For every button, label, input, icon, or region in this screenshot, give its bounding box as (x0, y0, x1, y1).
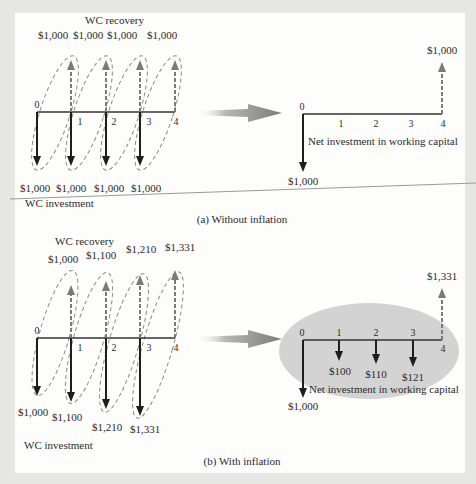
recovery-value: $1,000 (147, 29, 178, 41)
final-inflow-value: $1,000 (427, 44, 458, 56)
panel-b-right-diagram: 0 1 2 3 4 $100 $110 $121 Net investment … (279, 270, 459, 412)
incremental-outflow-value: $100 (329, 365, 352, 377)
wc-investment-label: WC investment (25, 197, 94, 209)
incremental-outflow-value: $121 (402, 371, 424, 383)
period-label: 0 (300, 327, 305, 338)
period-label: 1 (78, 342, 83, 353)
cash-flow-diagram: WC recovery $1,000 $1,000 $1,000 $1,000 … (0, 0, 476, 484)
period-label: 3 (147, 116, 152, 127)
period-label: 3 (147, 342, 152, 353)
caption-a: (a) Without inflation (197, 213, 288, 226)
investment-value: $1,000 (20, 182, 51, 194)
wc-recovery-label: WC recovery (85, 14, 144, 26)
recovery-value: $1,100 (86, 249, 117, 261)
investment-arrows (33, 338, 144, 416)
recovery-arrows (67, 60, 179, 112)
period-label: 4 (441, 343, 446, 354)
transition-arrow-icon (195, 104, 282, 122)
investment-value: $1,100 (52, 411, 83, 423)
period-label: 4 (441, 118, 446, 129)
transition-arrow-icon (195, 330, 282, 348)
period-label: 3 (409, 118, 414, 129)
panel-b-left-diagram: WC recovery $1,000 $1,100 $1,210 $1,331 … (18, 235, 195, 451)
panel-a-left-diagram: WC recovery $1,000 $1,000 $1,000 $1,000 … (20, 14, 191, 209)
period-label: 1 (339, 118, 344, 129)
caption-b: (b) With inflation (204, 455, 281, 468)
net-investment-label: Net investment in working capital (308, 135, 458, 147)
net-investment-label: Net investment in working capital (309, 383, 459, 395)
period-label: 1 (78, 116, 83, 127)
final-inflow-value: $1,331 (427, 270, 457, 282)
period-label: 1 (337, 327, 342, 338)
initial-outflow-value: $1,000 (288, 175, 319, 187)
investment-value: $1,000 (18, 406, 49, 418)
period-label: 2 (112, 342, 117, 353)
initial-outflow-value: $1,000 (288, 400, 319, 412)
period-label: 0 (300, 101, 305, 112)
investment-value: $1,331 (130, 423, 160, 435)
period-label: 4 (174, 342, 179, 353)
recovery-arrows (67, 270, 179, 338)
recovery-value: $1,331 (165, 241, 195, 253)
investment-arrows (33, 112, 144, 166)
investment-value: $1,000 (56, 182, 87, 194)
investment-value: $1,000 (131, 182, 162, 194)
period-label: 2 (374, 327, 379, 338)
period-label: 0 (35, 99, 40, 110)
period-label: 4 (174, 116, 179, 127)
investment-value: $1,000 (94, 182, 125, 194)
period-label: 0 (35, 325, 40, 336)
recovery-value: $1,000 (38, 29, 69, 41)
panel-a-right-diagram: 0 1 2 3 4 Net investment in working capi… (288, 44, 458, 187)
recovery-value: $1,210 (126, 243, 157, 255)
investment-value: $1,210 (92, 421, 123, 433)
recovery-value: $1,000 (73, 29, 104, 41)
wc-recovery-label: WC recovery (55, 235, 114, 247)
period-label: 3 (411, 327, 416, 338)
period-label: 2 (112, 116, 117, 127)
recovery-value: $1,000 (107, 29, 138, 41)
wc-investment-label: WC investment (24, 439, 93, 451)
period-label: 2 (374, 118, 379, 129)
recovery-value: $1,000 (48, 253, 79, 265)
incremental-outflow-value: $110 (365, 368, 387, 380)
